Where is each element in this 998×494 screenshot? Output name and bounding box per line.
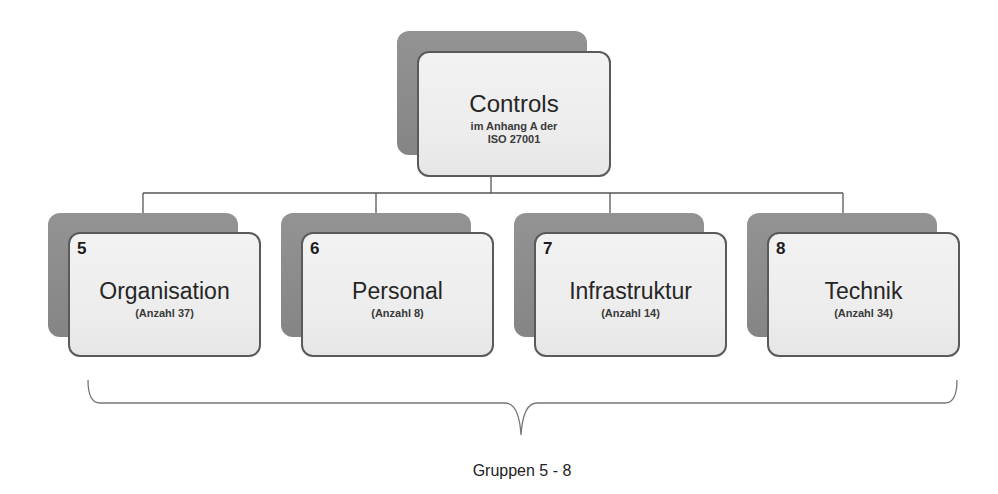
brace-label: Gruppen 5 - 8: [422, 462, 622, 480]
group-title: Organisation: [70, 278, 259, 305]
group-node-personal: 6 Personal (Anzahl 8): [301, 232, 494, 357]
group-number: 5: [77, 239, 86, 259]
group-number: 6: [310, 239, 319, 259]
group-title: Technik: [769, 278, 958, 305]
group-count: (Anzahl 37): [70, 307, 259, 319]
root-subtitle-line2: ISO 27001: [419, 133, 609, 145]
group-title: Personal: [303, 278, 492, 305]
group-count: (Anzahl 8): [303, 307, 492, 319]
group-number: 7: [543, 239, 552, 259]
group-node-infrastruktur: 7 Infrastruktur (Anzahl 14): [534, 232, 727, 357]
group-count: (Anzahl 14): [536, 307, 725, 319]
group-node-organisation: 5 Organisation (Anzahl 37): [68, 232, 261, 357]
root-node: Controls im Anhang A der ISO 27001: [417, 51, 611, 177]
group-number: 8: [776, 239, 785, 259]
group-count: (Anzahl 34): [769, 307, 958, 319]
curly-brace: [88, 380, 957, 435]
group-title: Infrastruktur: [536, 278, 725, 305]
group-node-technik: 8 Technik (Anzahl 34): [767, 232, 960, 357]
root-title: Controls: [419, 90, 609, 118]
root-subtitle-line1: im Anhang A der: [419, 120, 609, 132]
